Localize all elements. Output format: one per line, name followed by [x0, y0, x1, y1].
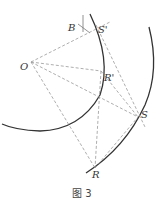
- label-s-prime: S': [98, 24, 108, 35]
- geometry-diagram: B S' O R' S R 图 3: [0, 0, 165, 201]
- line-r-s: [95, 117, 138, 168]
- inner-arc: [2, 14, 104, 131]
- line-o-s: [31, 62, 138, 117]
- line-o-r: [31, 62, 95, 168]
- line-o-r-prime: [31, 62, 101, 71]
- label-o: O: [20, 61, 28, 72]
- label-r-prime: R': [103, 72, 114, 83]
- figure-caption: 图 3: [72, 188, 92, 199]
- label-b: B: [67, 22, 75, 33]
- label-r: R: [91, 169, 100, 180]
- line-r-prime-r: [95, 71, 101, 168]
- label-s: S: [141, 109, 148, 120]
- b-diagonal-tick: [78, 24, 90, 33]
